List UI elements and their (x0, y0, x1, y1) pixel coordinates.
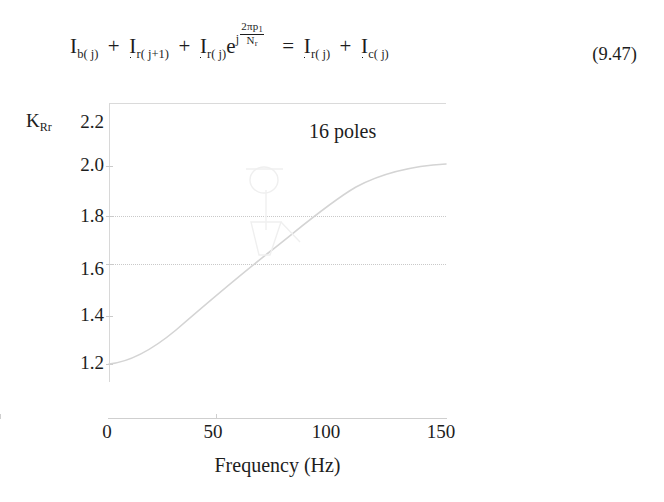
subscript-rj1: r( j+1) (137, 47, 169, 61)
xtick-label-150: 150 (416, 422, 466, 441)
x-axis-label: Frequency (Hz) (109, 454, 446, 477)
operator-plus: + (174, 34, 194, 58)
symbol-I: I (304, 34, 311, 58)
symbol-I-underlined: I (129, 36, 136, 57)
symbol-e: e (226, 34, 236, 58)
operator-equals: = (270, 34, 298, 58)
subscript-bj: b( j) (77, 47, 98, 61)
fraction-2pip1-over-Nr: 2πp1 Nr (239, 21, 265, 49)
fraction-numerator: 2πp1 (240, 21, 264, 35)
subscript-rj: r( j) (207, 47, 226, 61)
subscript-rj: r( j) (311, 47, 330, 61)
subscript-r: r (255, 38, 258, 48)
chart-annotation-16-poles: 16 poles (309, 120, 376, 143)
term-ic-j: Ic( j) (361, 36, 389, 60)
equation-expression: Ib( j) + Ir( j+1) + Ir( j)ej 2πp1 Nr = I… (70, 22, 389, 60)
term-ir-j-rhs: Ir( j) (304, 36, 330, 60)
data-series-line (109, 164, 446, 364)
fraction-denominator: Nr (240, 35, 264, 48)
arrow-pointer-tail (281, 222, 300, 242)
operator-plus: + (336, 34, 356, 58)
arrow-loop-circle (250, 167, 278, 193)
term-ir-j-plus-1: Ir( j+1) (129, 36, 169, 60)
equation-number: (9.47) (592, 44, 637, 65)
xtick-label-100: 100 (301, 422, 351, 441)
symbol-N: N (246, 34, 254, 46)
symbol-I: I (200, 34, 207, 58)
exponent-group: j 2πp1 Nr (236, 21, 265, 49)
equation-block: Ib( j) + Ir( j+1) + Ir( j)ej 2πp1 Nr = I… (0, 22, 664, 80)
term-ir-j-exp: Ir( j)ej 2πp1 Nr (200, 22, 265, 60)
symbol-I: I (129, 34, 136, 58)
xtick-label-50b: 50 (188, 422, 238, 441)
symbol-I-underlined: I (304, 36, 311, 57)
symbol-I-underlined: I (361, 36, 368, 57)
subscript-cj: c( j) (368, 47, 388, 61)
page-root: Ib( j) + Ir( j+1) + Ir( j)ej 2πp1 Nr = I… (0, 0, 664, 502)
operator-plus: + (104, 34, 124, 58)
subscript-1: 1 (258, 24, 262, 34)
symbol-I: I (361, 34, 368, 58)
symbol-I-underlined: I (200, 36, 207, 57)
down-arrow-annotation (246, 167, 300, 255)
chart-figure: 2.2 2.0 1.8 1.6 1.4 1.2 KRr 16 poles 0 (0, 92, 500, 502)
xtick-label-0: 0 (82, 422, 132, 441)
term-ib: Ib( j) (70, 36, 98, 60)
